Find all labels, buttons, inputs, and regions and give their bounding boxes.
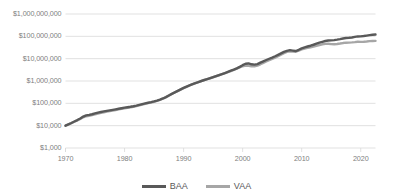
- y-axis-tick-label: $1,000,000: [27, 76, 62, 85]
- y-axis-tick-label: $1,000: [40, 143, 61, 152]
- x-axis-tick-label: 2000: [218, 154, 268, 163]
- legend-item-baa[interactable]: BAA: [142, 182, 188, 191]
- x-axis-ticks: [66, 148, 361, 152]
- x-axis-tick-label: 1990: [159, 154, 209, 163]
- y-axis-tick-label: $100,000,000: [19, 31, 62, 40]
- y-axis-tick-label: $10,000: [36, 121, 61, 130]
- y-axis-tick-label: $100,000: [32, 98, 61, 107]
- legend-swatch-vaa: [206, 185, 230, 188]
- series-line-vaa: [66, 41, 376, 126]
- x-axis-tick-label: 1970: [41, 154, 91, 163]
- chart-legend: BAAVAA: [0, 182, 393, 191]
- x-axis-tick-label: 2020: [336, 154, 386, 163]
- chart-container: $1,000,000,000$100,000,000$10,000,000$1,…: [0, 0, 393, 195]
- y-axis-tick-label: $10,000,000: [23, 54, 62, 63]
- y-axis-tick-label: $1,000,000,000: [13, 9, 62, 18]
- legend-label: VAA: [234, 182, 251, 191]
- x-axis-tick-label: 2010: [277, 154, 327, 163]
- legend-swatch-baa: [142, 185, 166, 188]
- x-axis-tick-label: 1980: [100, 154, 150, 163]
- data-series: [66, 35, 376, 126]
- series-line-baa: [66, 35, 376, 126]
- legend-label: BAA: [170, 182, 188, 191]
- legend-item-vaa[interactable]: VAA: [206, 182, 251, 191]
